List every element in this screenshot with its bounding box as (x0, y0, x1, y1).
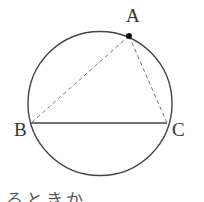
label-a: A (126, 5, 140, 26)
caption-fragment: るときか (6, 186, 86, 202)
segment-ab (31, 36, 129, 123)
geometry-diagram: A B C (0, 0, 204, 202)
circumcircle (28, 32, 172, 176)
label-c: C (172, 119, 185, 140)
point-a-dot (126, 33, 132, 39)
label-b: B (14, 119, 27, 140)
